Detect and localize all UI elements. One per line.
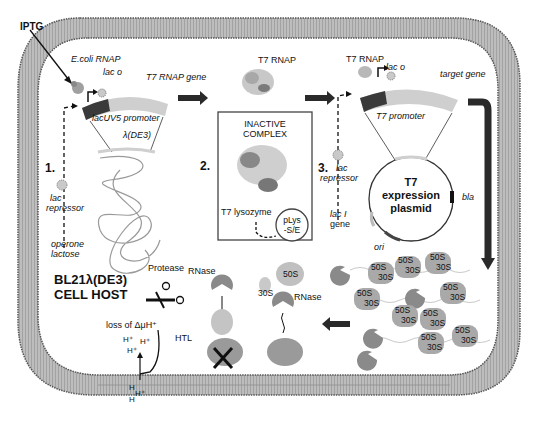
- ribosome-50s: 50S: [398, 256, 413, 265]
- bla-label: bla: [462, 193, 474, 203]
- h-plus-2: H⁺: [140, 338, 150, 347]
- iptg-label: IPTG: [20, 21, 43, 32]
- t7-rnap-right-label: T7 RNAP: [346, 55, 384, 65]
- lac-repressor-label-3b: repressor: [320, 174, 358, 184]
- ecoli-rnap-label: E.coli RNAP: [71, 55, 121, 65]
- t7-promoter-label: T7 promoter: [376, 112, 425, 122]
- h-membrane-2: H: [129, 396, 135, 405]
- lac-repressor-icon-3: [333, 150, 343, 160]
- ribosome-50s: 50S: [443, 283, 458, 292]
- arrow-left: [330, 321, 350, 327]
- loss-pmf-label: loss of ΔμH⁺: [106, 321, 157, 331]
- ribosome-50s: 50S: [371, 263, 386, 272]
- ribosome-50s: 50S: [455, 326, 470, 335]
- rnase-label-2: RNase: [294, 293, 322, 303]
- arrow-right-2: [305, 95, 327, 101]
- plys-label-1: pLys: [280, 216, 304, 225]
- ribosome-30s: 30S: [405, 266, 420, 275]
- ribosome-30s: 30S: [427, 343, 442, 352]
- rnase-label-1: RNase: [188, 267, 216, 277]
- t7-rnap-mid-label: T7 RNAP: [258, 56, 296, 66]
- ribosome-50s: 50S: [423, 309, 438, 318]
- ribosome-30s: 30S: [436, 263, 451, 272]
- t7-expression-diagram: IPTG E.coli RNAP lac o T7 RNAP gene lacU…: [0, 0, 540, 427]
- lac-o-label-1: lac o: [103, 68, 122, 78]
- plasmid-label-3: plasmid: [381, 202, 441, 214]
- lac-o-icon: [98, 89, 106, 97]
- lac-repressor-label-1b: repressor: [46, 204, 84, 214]
- t7-rnap-structure: [242, 69, 274, 95]
- ribosome-50s: 50S: [395, 306, 410, 315]
- inactive-label-2: COMPLEX: [234, 130, 296, 140]
- free-50s-label: 50S: [283, 270, 298, 279]
- ribosome-30s: 30S: [378, 273, 393, 282]
- h-plus-3: H⁺: [127, 347, 137, 356]
- plasmid-label-1: T7: [381, 176, 441, 188]
- free-30s-label: 30S: [258, 289, 273, 298]
- target-gene-label: target gene: [440, 70, 486, 80]
- ribosome-30s: 30S: [450, 293, 465, 302]
- laci-label-2: gene: [330, 220, 350, 230]
- ori-label: ori: [374, 243, 384, 253]
- lambda-de3-label: λ(DE3): [123, 131, 151, 141]
- t7-rnap-gene-label: T7 RNAP gene: [146, 73, 206, 83]
- step-2-label: 2.: [200, 160, 210, 173]
- host-label-2: CELL HOST: [54, 288, 127, 302]
- h-plus-1: H⁺: [123, 336, 133, 345]
- plasmid-label-2: expression: [376, 189, 446, 201]
- ribosome-30s: 30S: [364, 299, 379, 308]
- lactose-label: lactose: [51, 250, 80, 260]
- host-label-1: BL21λ(DE3): [54, 273, 127, 287]
- ribosome-50s: 50S: [421, 333, 436, 342]
- plys-label-2: -S/E: [280, 226, 304, 235]
- h-plus-4: H⁺: [135, 390, 145, 399]
- htl-label: HTL: [175, 334, 192, 344]
- ribosome-30s: 30S: [430, 319, 445, 328]
- ribosome-30s: 30S: [401, 316, 416, 325]
- ribosome-50s: 50S: [430, 253, 445, 262]
- step-1-label: 1.: [45, 162, 55, 175]
- t7-lysozyme-label: T7 lysozyme: [221, 208, 272, 218]
- ribosome-30s: 30S: [461, 336, 476, 345]
- h-membrane-1: H: [129, 384, 135, 393]
- arrow-right-1: [178, 95, 200, 101]
- protease-label: Protease: [148, 264, 184, 274]
- ribosome-50s: 50S: [357, 289, 372, 298]
- lacuv5-promoter-label: lacUV5 promoter: [92, 114, 160, 124]
- lac-o-label-2: lac o: [386, 63, 405, 73]
- lac-repressor-icon-1: [57, 180, 67, 190]
